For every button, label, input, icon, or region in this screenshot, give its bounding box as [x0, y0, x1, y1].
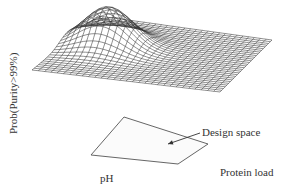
design-space-label: Design space [202, 126, 260, 138]
protein-load-axis-label: Protein load [220, 166, 273, 178]
ph-axis-label: pH [100, 172, 113, 184]
design-space-polygon [91, 117, 208, 164]
y-axis-label: Prob(Purity>99%) [7, 53, 19, 134]
probability-surface-mesh [32, 7, 272, 92]
